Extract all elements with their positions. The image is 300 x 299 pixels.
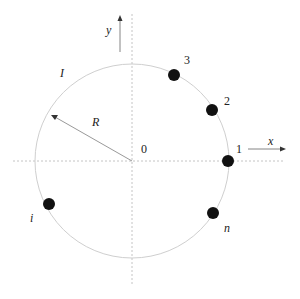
arc-label: I [59,66,65,80]
x-arrowhead-icon [280,147,286,152]
point-label-3: 3 [184,53,190,67]
point-label-1: 1 [236,142,242,156]
point-label-n: n [224,221,230,235]
point-label-2: 2 [224,94,230,108]
radius-arrowhead-icon [51,115,58,120]
y-axis-label: y [105,23,112,37]
center-label: 0 [141,142,147,156]
point-2 [206,104,218,116]
circle-diagram: y x I R 0 1 2 3 n i [0,0,300,299]
point-n [207,207,219,219]
radius-label: R [91,115,100,129]
point-i [43,198,55,210]
y-arrowhead-icon [118,15,123,21]
point-1 [222,155,234,167]
point-3 [168,69,180,81]
x-axis-label: x [267,134,274,148]
point-label-i: i [30,211,33,225]
